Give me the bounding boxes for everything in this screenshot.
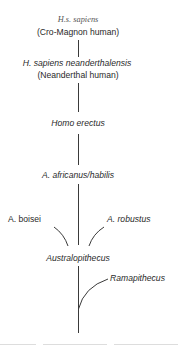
node-ramapithecus: Ramapithecus [110, 273, 165, 283]
node-africanus-habilis: A. africanus/habilis [42, 170, 114, 180]
node-neanderthalensis-label: H. sapiens neanderthalensis [23, 58, 131, 68]
node-neanderthal-sublabel: (Neanderthal human) [37, 70, 118, 80]
node-boisei: A. boisei [8, 214, 41, 224]
node-hs-sapiens-label: H.s. sapiens [58, 15, 99, 25]
edge-boisei-branch [54, 227, 68, 246]
node-australopithecus: Australopithecus [46, 253, 110, 263]
node-robustus: A. robustus [107, 214, 150, 224]
edge-robustus-branch [89, 227, 104, 246]
node-homo-erectus: Homo erectus [51, 118, 105, 128]
node-cromagnon-sublabel: (Cro-Magnon human) [37, 27, 119, 37]
edge-ramapithecus-branch [79, 279, 109, 309]
cropped-caption-fragment [0, 343, 178, 347]
